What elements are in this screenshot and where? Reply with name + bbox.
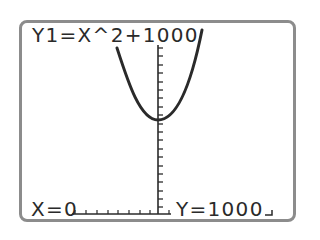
equation-label: Y1=X^2+1000	[32, 25, 199, 45]
y-axis	[158, 45, 163, 214]
trace-y-value: Y=1000	[176, 199, 264, 219]
cursor-icon	[265, 210, 272, 215]
x-axis	[72, 210, 171, 214]
trace-x-value: X=0	[31, 199, 78, 219]
